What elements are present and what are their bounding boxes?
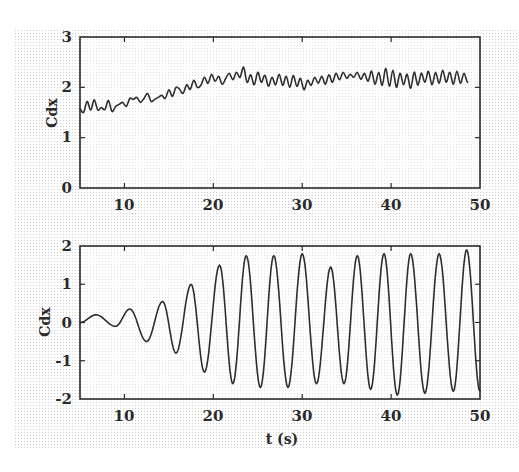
top-xtick-20: 20 [203, 196, 224, 214]
chart-canvas: 0 1 2 3 10 20 30 40 50 Cdx -2 -1 0 [0, 0, 519, 472]
top-ytick-3: 3 [62, 28, 72, 46]
top-ytick-0: 0 [62, 179, 72, 197]
bottom-ytick-1: 1 [62, 275, 72, 293]
top-ytick-1: 1 [62, 128, 72, 146]
figure: 0 1 2 3 10 20 30 40 50 Cdx -2 -1 0 [0, 0, 519, 472]
top-xtick-30: 30 [292, 196, 313, 214]
bottom-xtick-50: 50 [470, 407, 491, 425]
bottom-ytick-0: 0 [62, 314, 72, 332]
top-xtick-10: 10 [114, 196, 135, 214]
top-ytick-2: 2 [62, 78, 72, 96]
top-panel: 0 1 2 3 10 20 30 40 50 Cdx [44, 28, 490, 214]
bottom-xtick-40: 40 [381, 407, 402, 425]
bottom-ytick-neg1: -1 [55, 352, 72, 370]
top-y-axis-label: Cdx [44, 98, 60, 128]
top-xtick-50: 50 [470, 196, 491, 214]
bottom-y-axis-label: Cdx [37, 307, 53, 337]
bottom-x-axis-label: t (s) [266, 431, 298, 447]
bottom-xtick-10: 10 [114, 407, 135, 425]
bottom-ytick-2: 2 [62, 237, 72, 255]
bottom-ytick-neg2: -2 [55, 390, 72, 408]
top-xtick-40: 40 [381, 196, 402, 214]
bottom-xtick-20: 20 [203, 407, 224, 425]
bottom-xtick-30: 30 [292, 407, 313, 425]
